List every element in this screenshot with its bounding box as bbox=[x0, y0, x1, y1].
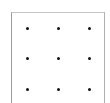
grid-dot bbox=[26, 27, 29, 30]
grid-dot bbox=[88, 88, 91, 91]
grid-dot bbox=[57, 27, 60, 30]
grid-dot bbox=[57, 88, 60, 91]
grid-dot bbox=[57, 57, 60, 60]
grid-dot bbox=[26, 88, 29, 91]
grid-dot bbox=[26, 57, 29, 60]
grid-dot bbox=[88, 57, 91, 60]
grid-dot bbox=[88, 27, 91, 30]
